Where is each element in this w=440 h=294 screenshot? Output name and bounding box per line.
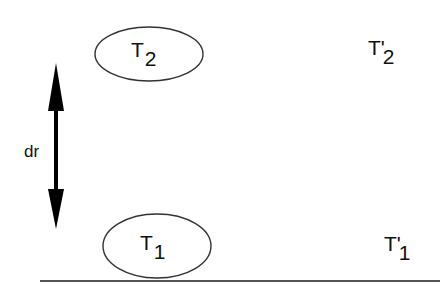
arrow-head-up-icon [48, 63, 64, 111]
label-t1: T1 [140, 232, 166, 253]
label-t2-prime-sub: 2 [383, 45, 395, 68]
label-t1-main: T [140, 231, 153, 254]
label-t1-sub: 1 [154, 240, 166, 263]
label-t2-main: T [131, 38, 144, 61]
arrow-shaft [54, 105, 58, 195]
label-t2: T2 [131, 39, 157, 60]
label-t2-prime: T'2 [368, 37, 395, 58]
label-t1-prime-sub: 1 [399, 241, 411, 264]
arrow-label-dr: dr [24, 143, 39, 160]
arrow-head-down-icon [48, 189, 64, 229]
label-t2-sub: 2 [145, 47, 157, 70]
label-t1-prime: T'1 [384, 233, 411, 254]
diagram-canvas: T2 T1 T'2 T'1 dr [0, 0, 440, 294]
